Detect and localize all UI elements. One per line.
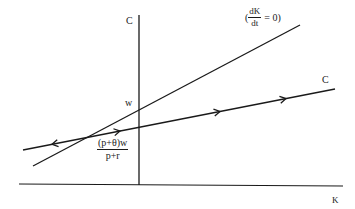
label-equals-zero: = 0) xyxy=(264,13,280,23)
dk-dt-fraction: dK dt xyxy=(248,7,261,28)
c-intercept-fraction: (p+θ)w p+r xyxy=(97,138,128,161)
fraction-denominator: p+r xyxy=(106,150,120,161)
fraction-numerator: (p+θ)w xyxy=(97,138,128,150)
x-axis-label: K xyxy=(332,196,339,205)
c-path-line xyxy=(23,89,335,150)
phase-diagram xyxy=(0,0,355,209)
c-path-label: C xyxy=(322,75,329,85)
dk-numerator: dK xyxy=(248,7,261,18)
dk-dt-zero-label: ( dK dt = 0) xyxy=(245,7,281,28)
horizontal-axis-k xyxy=(19,184,343,186)
y-axis-label: C xyxy=(126,16,133,26)
w-intercept-label: w xyxy=(125,98,132,108)
dt-denominator: dt xyxy=(251,18,258,28)
dk-dt-zero-line xyxy=(33,25,300,166)
